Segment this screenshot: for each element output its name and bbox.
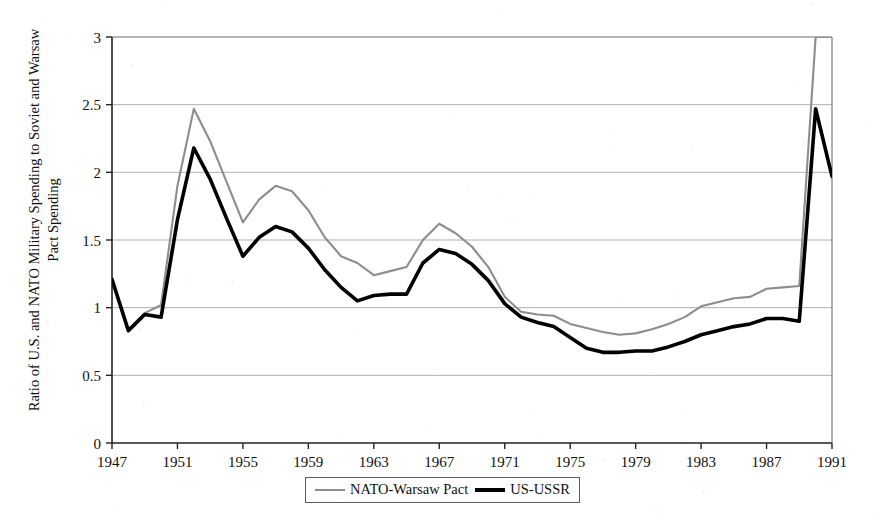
legend-item-nato-warsaw-pact: NATO-Warsaw Pact: [315, 481, 468, 498]
svg-text:1951: 1951: [162, 454, 192, 470]
svg-text:1947: 1947: [97, 454, 128, 470]
legend-label-us: US-USSR: [510, 481, 570, 498]
svg-text:1991: 1991: [817, 454, 847, 470]
svg-text:0: 0: [94, 436, 102, 452]
svg-text:1955: 1955: [228, 454, 258, 470]
svg-text:1987: 1987: [752, 454, 783, 470]
svg-text:1983: 1983: [686, 454, 716, 470]
svg-text:1967: 1967: [424, 454, 455, 470]
legend-swatch-us-icon: [475, 488, 505, 492]
svg-text:1979: 1979: [621, 454, 651, 470]
legend-label-nato: NATO-Warsaw Pact: [350, 481, 468, 498]
svg-text:1971: 1971: [490, 454, 520, 470]
chart-canvas: 00.511.522.53 19471951195519591963196719…: [0, 0, 885, 528]
svg-text:1: 1: [94, 300, 102, 316]
svg-text:1.5: 1.5: [82, 233, 101, 249]
chart-legend: NATO-Warsaw Pact US-USSR: [305, 477, 580, 503]
svg-text:1959: 1959: [293, 454, 323, 470]
svg-text:0.5: 0.5: [82, 368, 101, 384]
legend-item-us-ussr: US-USSR: [475, 481, 570, 498]
svg-text:1975: 1975: [555, 454, 585, 470]
y-axis-tick-labels: 00.511.522.53: [82, 30, 101, 452]
svg-text:3: 3: [94, 30, 102, 46]
legend-swatch-nato-icon: [315, 489, 345, 491]
svg-text:1963: 1963: [359, 454, 389, 470]
svg-text:2: 2: [94, 165, 102, 181]
x-axis-ticks: [112, 443, 832, 449]
x-axis-tick-labels: 1947195119551959196319671971197519791983…: [97, 454, 847, 470]
svg-text:2.5: 2.5: [82, 97, 101, 113]
data-series-group: [112, 37, 832, 352]
chart-figure: Ratio of U.S. and NATO Military Spending…: [0, 0, 885, 528]
